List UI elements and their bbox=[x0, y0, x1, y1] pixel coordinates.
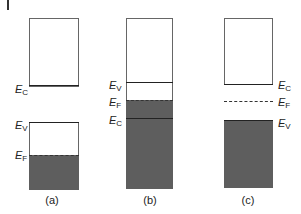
ev-line-b bbox=[126, 82, 173, 83]
ec-line-a bbox=[29, 85, 79, 86]
ef-label-a: EF bbox=[15, 150, 27, 164]
ec-label-b: EC bbox=[109, 115, 122, 129]
caption-c: (c) bbox=[228, 194, 268, 206]
ef-line-a bbox=[29, 155, 79, 156]
ev-line-c bbox=[224, 120, 273, 121]
ef-label-b: EF bbox=[109, 97, 121, 111]
ef-line-b bbox=[126, 100, 173, 101]
conduction-band-box-c bbox=[224, 18, 273, 85]
ev-line-a bbox=[29, 122, 79, 123]
filled-states-a bbox=[29, 155, 79, 190]
ev-label-c: EV bbox=[278, 118, 291, 132]
filled-states-c bbox=[224, 121, 273, 188]
ev-label-b: EV bbox=[109, 80, 122, 94]
conduction-band-box-a bbox=[29, 18, 79, 87]
caption-a: (a) bbox=[32, 194, 72, 206]
corner-mark bbox=[7, 0, 9, 10]
ec-line-c bbox=[224, 84, 273, 85]
ec-label-c: EC bbox=[278, 80, 291, 94]
ec-line-b bbox=[126, 118, 173, 119]
ec-label-a: EC bbox=[15, 84, 28, 98]
caption-b: (b) bbox=[130, 194, 170, 206]
ev-label-a: EV bbox=[15, 120, 28, 134]
ef-label-c: EF bbox=[278, 97, 290, 111]
filled-states-b bbox=[126, 100, 173, 189]
ef-line-c bbox=[224, 101, 273, 102]
